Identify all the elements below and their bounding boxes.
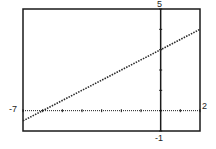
x-max-label: 2 [202,102,207,111]
data-line [23,29,200,121]
y-max-label: 5 [157,0,162,9]
plot-frame [23,9,200,131]
y-min-label: -1 [155,134,163,143]
x-min-label: -7 [9,105,17,114]
graph-plot [0,0,216,149]
